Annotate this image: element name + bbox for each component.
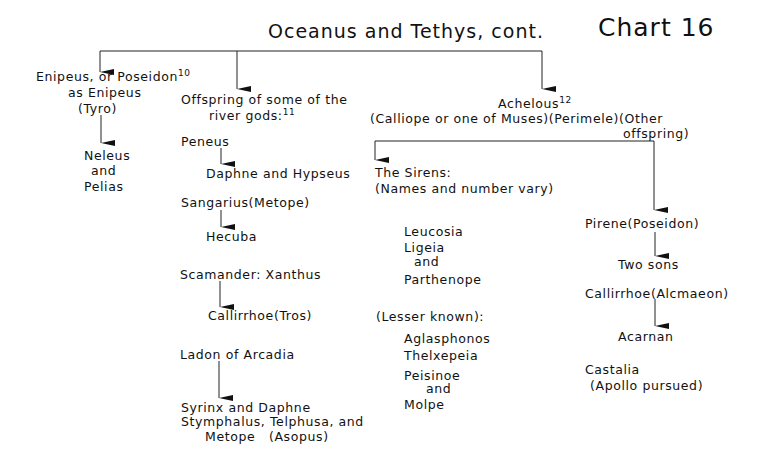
siren-thelxepeia: Thelxepeia <box>404 348 478 363</box>
siren-molpe: Molpe <box>404 397 445 412</box>
sangarius: Sangarius(Metope) <box>181 195 310 210</box>
footnote-10: 10 <box>178 68 191 78</box>
river-gods-heading: Offspring of some of the <box>181 92 348 107</box>
callirrhoe-tros: Callirrhoe(Tros) <box>208 308 312 323</box>
siren-aglasphonos: Aglasphonos <box>404 331 490 346</box>
callirrhoe-alcmaeon: Callirrhoe(Alcmaeon) <box>585 286 729 301</box>
child-neleus: Neleus <box>84 148 130 163</box>
enipeus-alias: as Enipeus <box>68 85 142 100</box>
child-pelias: Pelias <box>84 179 124 194</box>
achelous-spouses: (Calliope or one of Muses)(Perimele)(Oth… <box>370 111 663 126</box>
daphne-and-hypseus: Daphne and Hypseus <box>206 166 350 181</box>
enipeus-consort: (Tyro) <box>78 101 117 116</box>
page-title: Oceanus and Tethys, cont. <box>268 24 544 39</box>
castalia: Castalia <box>585 362 640 377</box>
footnote-11: 11 <box>283 107 296 117</box>
footnote-12: 12 <box>559 95 572 105</box>
child-and: and <box>91 163 116 178</box>
castalia-note: (Apollo pursued) <box>590 378 703 393</box>
siren-ligeia: Ligeia <box>404 240 445 255</box>
two-sons: Two sons <box>618 257 679 272</box>
siren-parthenope: Parthenope <box>404 272 481 287</box>
scamander: Scamander: Xanthus <box>180 267 321 282</box>
sirens-subtitle: (Names and number vary) <box>375 181 554 196</box>
asopus-children-cont: Metope (Asopus) <box>205 429 329 444</box>
sirens-title: The Sirens: <box>375 165 451 180</box>
enipeus-name: Enipeus, or Poseidon <box>36 69 178 84</box>
ladon: Ladon of Arcadia <box>180 347 295 362</box>
pirene: Pirene(Poseidon) <box>585 216 699 231</box>
peneus: Peneus <box>181 134 229 149</box>
chart-label: Chart 16 <box>598 20 714 35</box>
siren-leucosia: Leucosia <box>404 224 463 239</box>
hecuba: Hecuba <box>206 229 257 244</box>
syrinx-and-daphne: Syrinx and Daphne <box>181 400 311 415</box>
asopus-children: Stymphalus, Telphusa, and <box>181 414 364 429</box>
siren-and-2: and <box>426 381 451 396</box>
siren-and: and <box>414 254 439 269</box>
achelous-spouses-cont: offspring) <box>623 126 689 141</box>
sirens-lesser-label: (Lesser known): <box>376 309 484 324</box>
river-gods-subheading: river gods: <box>209 108 283 123</box>
acarnan: Acarnan <box>618 329 674 344</box>
achelous-name: Achelous <box>498 96 559 111</box>
